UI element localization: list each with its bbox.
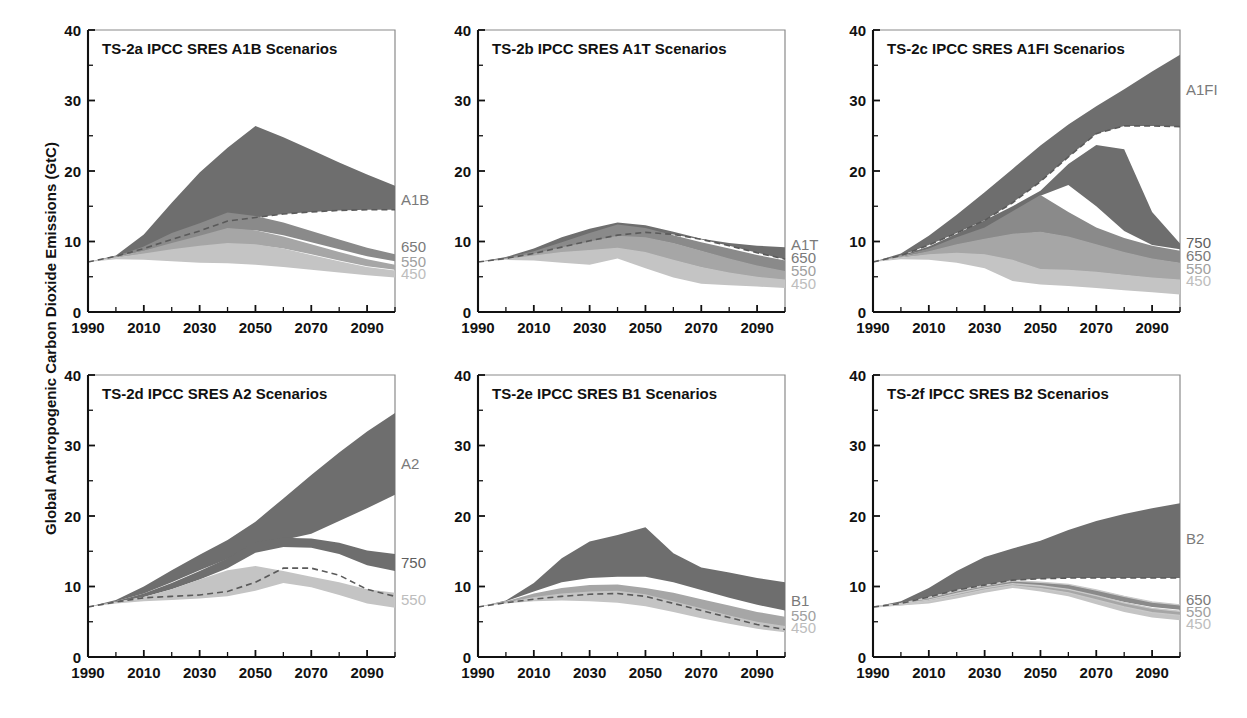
x-tick-label-2030: 2030 [573, 664, 606, 681]
x-tick-label-1990: 1990 [71, 664, 104, 681]
right-label-450: 450 [401, 265, 426, 282]
x-tick-label-2010: 2010 [517, 664, 550, 681]
x-tick-label-2070: 2070 [1080, 664, 1113, 681]
panel-ts-2b: 010203040199020102030205020702090TS-2b I… [426, 16, 847, 358]
y-tick-label-30: 30 [849, 92, 866, 109]
right-label-450: 450 [791, 275, 816, 292]
y-tick-label-10: 10 [849, 578, 866, 595]
x-tick-label-2050: 2050 [629, 664, 662, 681]
panel-title: TS-2f IPCC SRES B2 Scenarios [887, 385, 1109, 402]
y-tick-label-20: 20 [454, 508, 471, 525]
y-tick-label-10: 10 [64, 578, 81, 595]
y-tick-label-40: 40 [849, 367, 866, 384]
panel-ts-2f: 010203040199020102030205020702090TS-2f I… [821, 361, 1242, 703]
y-tick-label-30: 30 [454, 92, 471, 109]
y-tick-label-0: 0 [73, 649, 81, 666]
x-tick-label-2070: 2070 [295, 664, 328, 681]
y-tick-label-0: 0 [858, 304, 866, 321]
panel-ts-2a: 010203040199020102030205020702090TS-2a I… [36, 16, 457, 358]
y-tick-label-10: 10 [849, 233, 866, 250]
x-tick-label-2050: 2050 [1024, 664, 1057, 681]
panel-ts-2e: 010203040199020102030205020702090TS-2e I… [426, 361, 847, 703]
right-label-a2: A2 [401, 455, 419, 472]
x-tick-label-2090: 2090 [350, 664, 383, 681]
x-tick-label-2030: 2030 [968, 319, 1001, 336]
x-tick-label-2050: 2050 [1024, 319, 1057, 336]
x-tick-label-2090: 2090 [1135, 664, 1168, 681]
y-tick-label-20: 20 [64, 163, 81, 180]
x-tick-label-2010: 2010 [912, 319, 945, 336]
x-tick-label-1990: 1990 [461, 319, 494, 336]
x-tick-label-2010: 2010 [912, 664, 945, 681]
right-label-750: 750 [401, 554, 426, 571]
x-tick-label-2030: 2030 [968, 664, 1001, 681]
x-tick-label-2030: 2030 [183, 319, 216, 336]
y-tick-label-0: 0 [463, 649, 471, 666]
panel-title: TS-2c IPCC SRES A1FI Scenarios [887, 40, 1125, 57]
panel-title: TS-2e IPCC SRES B1 Scenarios [492, 385, 717, 402]
panel-title: TS-2b IPCC SRES A1T Scenarios [492, 40, 727, 57]
y-tick-label-40: 40 [64, 22, 81, 39]
x-tick-label-1990: 1990 [461, 664, 494, 681]
x-tick-label-1990: 1990 [856, 319, 889, 336]
x-tick-label-2030: 2030 [573, 319, 606, 336]
panel-ts-2c: 010203040199020102030205020702090TS-2c I… [821, 16, 1242, 358]
x-tick-label-2050: 2050 [629, 319, 662, 336]
x-tick-label-2070: 2070 [685, 319, 718, 336]
y-tick-label-10: 10 [454, 578, 471, 595]
y-tick-label-0: 0 [463, 304, 471, 321]
right-label-450: 450 [1186, 272, 1211, 289]
x-tick-label-2030: 2030 [183, 664, 216, 681]
right-label-b2: B2 [1186, 530, 1204, 547]
x-tick-label-2070: 2070 [685, 664, 718, 681]
x-tick-label-2010: 2010 [127, 664, 160, 681]
y-tick-label-40: 40 [454, 367, 471, 384]
x-tick-label-1990: 1990 [71, 319, 104, 336]
y-tick-label-0: 0 [73, 304, 81, 321]
y-tick-label-30: 30 [454, 437, 471, 454]
right-label-550: 550 [401, 591, 426, 608]
x-tick-label-2050: 2050 [239, 319, 272, 336]
y-tick-label-30: 30 [849, 437, 866, 454]
x-tick-label-2070: 2070 [1080, 319, 1113, 336]
x-tick-label-2010: 2010 [127, 319, 160, 336]
right-label-450: 450 [1186, 615, 1211, 632]
panel-ts-2d: 010203040199020102030205020702090TS-2d I… [36, 361, 457, 703]
x-tick-label-2070: 2070 [295, 319, 328, 336]
x-tick-label-2050: 2050 [239, 664, 272, 681]
y-tick-label-30: 30 [64, 92, 81, 109]
x-tick-label-2010: 2010 [517, 319, 550, 336]
y-tick-label-40: 40 [849, 22, 866, 39]
x-tick-label-1990: 1990 [856, 664, 889, 681]
x-tick-label-2090: 2090 [740, 319, 773, 336]
y-tick-label-10: 10 [64, 233, 81, 250]
y-tick-label-20: 20 [849, 163, 866, 180]
ipcc-emissions-figure: Global Anthropogenic Carbon Dioxide Emis… [0, 0, 1247, 718]
panel-title: TS-2a IPCC SRES A1B Scenarios [102, 40, 337, 57]
y-tick-label-20: 20 [64, 508, 81, 525]
band-b2 [873, 503, 1180, 607]
right-label-450: 450 [791, 619, 816, 636]
x-tick-label-2090: 2090 [1135, 319, 1168, 336]
right-label-a1fi: A1FI [1186, 81, 1218, 98]
x-tick-label-2090: 2090 [350, 319, 383, 336]
x-tick-label-2090: 2090 [740, 664, 773, 681]
panel-title: TS-2d IPCC SRES A2 Scenarios [102, 385, 327, 402]
y-tick-label-40: 40 [64, 367, 81, 384]
y-tick-label-20: 20 [454, 163, 471, 180]
y-tick-label-40: 40 [454, 22, 471, 39]
y-tick-label-20: 20 [849, 508, 866, 525]
y-tick-label-10: 10 [454, 233, 471, 250]
y-tick-label-0: 0 [858, 649, 866, 666]
y-tick-label-30: 30 [64, 437, 81, 454]
